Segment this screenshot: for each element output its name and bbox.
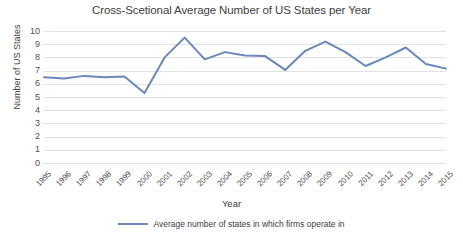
x-axis-tick-labels: 1995199619971998199920002001200220032004… bbox=[44, 165, 446, 199]
y-axis-tick-label: 5 bbox=[14, 93, 40, 102]
series-line-chart bbox=[44, 31, 446, 163]
y-axis-tick-label: 3 bbox=[14, 119, 40, 128]
chart-legend: Average number of states in which firms … bbox=[0, 219, 463, 229]
gridline bbox=[44, 163, 446, 164]
x-axis-title: Year bbox=[0, 198, 463, 209]
y-axis-tick-label: 8 bbox=[14, 53, 40, 62]
legend-color-swatch bbox=[118, 223, 148, 226]
y-axis-tick-label: 0 bbox=[14, 159, 40, 168]
y-axis-tick-labels: 109876543210 bbox=[10, 31, 40, 163]
legend-item-label: Average number of states in which firms … bbox=[153, 219, 344, 229]
series-line bbox=[44, 38, 446, 93]
y-axis-tick-label: 7 bbox=[14, 66, 40, 75]
y-axis-tick-label: 2 bbox=[14, 132, 40, 141]
y-axis-tick-label: 9 bbox=[14, 40, 40, 49]
chart-title: Cross-Scetional Average Number of US Sta… bbox=[0, 4, 463, 16]
plot-area bbox=[44, 31, 446, 163]
y-axis-tick-label: 10 bbox=[14, 27, 40, 36]
y-axis-tick-label: 1 bbox=[14, 145, 40, 154]
y-axis-tick-label: 4 bbox=[14, 106, 40, 115]
y-axis-tick-label: 6 bbox=[14, 79, 40, 88]
chart-container: Cross-Scetional Average Number of US Sta… bbox=[0, 0, 463, 244]
